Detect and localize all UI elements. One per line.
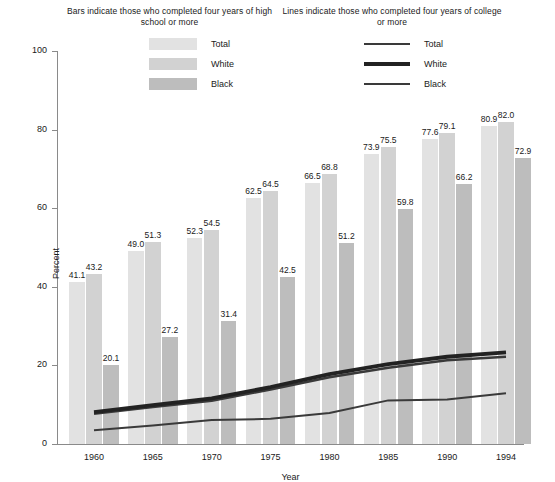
y-tick-label: 0 (21, 438, 47, 448)
y-tick (52, 444, 57, 445)
bar-value-label: 59.8 (388, 197, 422, 207)
bar-value-label: 43.2 (77, 262, 111, 272)
bar-value-label: 31.4 (212, 309, 246, 319)
bar-value-label: 52.3 (178, 226, 212, 236)
lines-legend-label: Total (424, 36, 443, 52)
bar-value-label: 27.2 (153, 325, 187, 335)
y-tick-label: 60 (21, 202, 47, 212)
line-series (94, 393, 506, 430)
bars-legend-label: Total (211, 36, 230, 52)
lines-legend-item: Total (362, 36, 502, 52)
bar-swatch-total (149, 38, 197, 50)
bar-value-label: 42.5 (271, 265, 305, 275)
bar-value-label: 51.2 (329, 231, 363, 241)
bar-value-label: 20.1 (94, 353, 128, 363)
y-tick-label: 80 (21, 124, 47, 134)
bar-value-label: 64.5 (254, 179, 288, 189)
x-tick-label: 1970 (192, 452, 232, 462)
bars-legend-title: Bars indicate those who completed four y… (62, 6, 277, 28)
x-tick-label: 1980 (309, 452, 349, 462)
x-tick-label: 1965 (133, 452, 173, 462)
x-axis-title: Year (57, 472, 524, 482)
line-swatch-total (364, 43, 410, 46)
bar-value-label: 75.5 (371, 135, 405, 145)
bar-value-label: 68.8 (312, 162, 346, 172)
y-tick-label: 100 (21, 45, 47, 55)
bar-value-label: 82.0 (489, 110, 523, 120)
x-tick-label: 1985 (368, 452, 408, 462)
bar-value-label: 79.1 (430, 121, 464, 131)
x-tick-label: 1990 (427, 452, 467, 462)
x-tick-label: 1975 (251, 452, 291, 462)
y-tick-label: 20 (21, 359, 47, 369)
bar-value-label: 72.9 (506, 146, 540, 156)
bar-value-label: 66.5 (295, 171, 329, 181)
bar-value-label: 66.2 (447, 172, 481, 182)
bar-value-label: 49.0 (119, 239, 153, 249)
lines-legend-title: Lines indicate those who completed four … (278, 6, 506, 28)
x-axis-line (57, 444, 524, 445)
plot-area: Percent Year 020406080100 19601965197019… (57, 51, 524, 444)
y-tick-label: 40 (21, 281, 47, 291)
bars-legend-item: Total (149, 36, 279, 52)
x-tick-label: 1960 (74, 452, 114, 462)
bar-value-label: 51.3 (136, 230, 170, 240)
x-tick-label: 1994 (486, 452, 526, 462)
bar-value-label: 54.5 (195, 218, 229, 228)
